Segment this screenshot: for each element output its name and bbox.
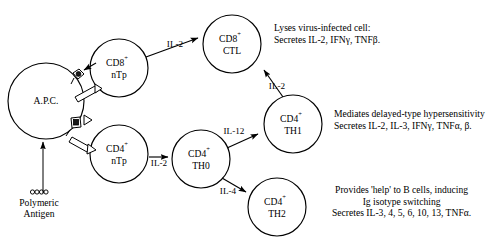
cytokine-label-il2-th1: IL-2 <box>269 81 286 91</box>
polymeric-antigen-icon <box>30 190 48 194</box>
cell-circle-cd4-th2[interactable]: CD4+ TH2 <box>248 178 306 236</box>
cell-circle-cd4-ntp[interactable]: CD4+ nTp <box>90 125 148 183</box>
immunology-diagram: A.P.C. CD8+ nTp CD4+ nTp CD8+ CTL CD4+ T… <box>0 0 502 242</box>
cell-label-cd4-th0-sub: TH0 <box>192 160 210 171</box>
peptide-dot-icon <box>76 72 81 77</box>
th2-description-line-2: Ig isotype switching <box>332 196 471 208</box>
ctl-description: Lyses virus-infected cell: Secretes IL-2… <box>274 22 380 45</box>
arrow-th0-to-th1 <box>227 134 258 148</box>
cell-label-cd8-ctl-sub: CTL <box>223 45 241 56</box>
peptide-block-icon <box>74 120 79 126</box>
antigen-label-line-2: Antigen <box>13 208 65 219</box>
cell-label-cd4-th1-sub: TH1 <box>284 125 302 136</box>
th2-description-line-1: Provides 'help' to B cells, inducing <box>332 184 471 196</box>
ctl-description-line-2: Secretes IL-2, IFNγ, TNFβ. <box>274 34 380 46</box>
ctl-description-line-1: Lyses virus-infected cell: <box>274 22 380 34</box>
th1-description-line-2: Secretes IL-2, IL-3, IFNγ, TNFα, β. <box>334 120 485 132</box>
polymeric-antigen-label: Polymeric Antigen <box>13 197 65 220</box>
cytokine-label-il2-ctl: IL-2 <box>167 39 184 49</box>
antigen-label-line-1: Polymeric <box>13 197 65 208</box>
cell-label-apc: A.P.C. <box>34 95 59 106</box>
cell-label-cd4-ntp-sub: nTp <box>111 155 127 166</box>
cytokine-label-il4: IL-4 <box>220 186 237 196</box>
cell-circle-cd4-th0[interactable]: CD4+ TH0 <box>172 130 230 188</box>
cytokine-label-il2-th0: IL-2 <box>151 158 168 168</box>
th2-description-line-3: Secretes IL-3, 4, 5, 6, 10, 13, TNFα. <box>332 207 471 219</box>
tcr-receptor-cd4-icon <box>69 137 90 152</box>
cell-circle-cd4-th1[interactable]: CD4+ TH1 <box>264 95 322 153</box>
cell-label-cd4-th2-sub: TH2 <box>268 208 286 219</box>
cytokine-label-il12: IL-12 <box>224 126 245 136</box>
th1-description-line-1: Mediates delayed-type hypersensitivity <box>334 108 485 120</box>
th2-description: Provides 'help' to B cells, inducing Ig … <box>332 184 471 219</box>
mhc-arrowhead-ii-icon <box>84 115 92 125</box>
th1-description: Mediates delayed-type hypersensitivity S… <box>334 108 485 131</box>
cell-circle-cd8-ctl[interactable]: CD8+ CTL <box>203 15 261 73</box>
cell-label-cd8-ntp-sub: nTp <box>111 69 127 80</box>
